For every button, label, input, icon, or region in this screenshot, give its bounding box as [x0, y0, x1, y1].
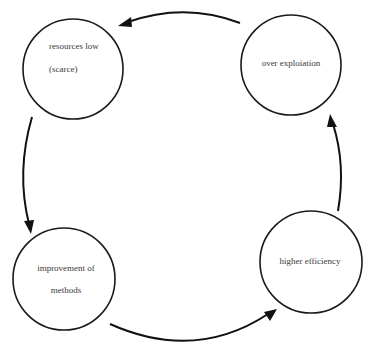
arrow-line — [23, 117, 32, 224]
arrow-line — [128, 12, 240, 23]
node-improvement-of-methods: improvement of methods — [13, 228, 115, 330]
node-label-line-1: higher efficiency — [279, 256, 341, 266]
edge-over-exploitation-to-resources-low — [118, 12, 240, 27]
arrowhead-icon — [24, 220, 34, 234]
node-over-exploitation: over exploiation — [241, 15, 341, 115]
arrow-line — [110, 314, 268, 341]
arrow-line — [333, 124, 341, 211]
node-higher-efficiency: higher efficiency — [260, 211, 362, 313]
arrowhead-icon — [118, 17, 132, 27]
node-label-line-2: (scarce) — [49, 64, 77, 74]
node-resources-low: resources low (scarce) — [23, 19, 123, 119]
node-label-line-1: over exploiation — [262, 58, 321, 68]
edge-improvement-to-higher-efficiency — [110, 309, 277, 341]
node-label-line-1: improvement of — [37, 263, 95, 273]
node-label-line-2: methods — [51, 285, 82, 295]
cycle-diagram: resources low (scarce) over exploiation … — [0, 0, 378, 357]
edge-higher-efficiency-to-over-exploitation — [327, 114, 341, 211]
arrowhead-icon — [327, 114, 337, 127]
edge-resources-low-to-improvement — [23, 117, 34, 234]
node-circle — [13, 228, 115, 330]
node-label-line-1: resources low — [49, 41, 99, 51]
